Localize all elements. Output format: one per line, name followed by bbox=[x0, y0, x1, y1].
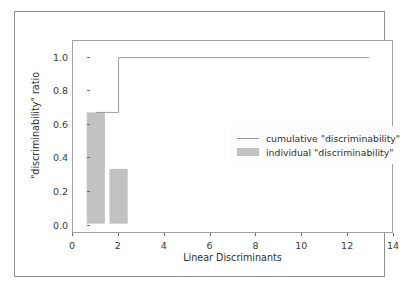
x-axis-label: Linear Discriminants bbox=[72, 252, 393, 263]
bar-series bbox=[87, 112, 128, 223]
y-tick-mark bbox=[87, 124, 90, 125]
legend-item-cumulative: cumulative "discriminability" bbox=[237, 131, 390, 145]
x-tick-label: 14 bbox=[387, 240, 399, 251]
x-tick-label: 6 bbox=[207, 240, 213, 251]
x-tick-label: 10 bbox=[295, 240, 307, 251]
x-tick-label: 4 bbox=[161, 240, 167, 251]
legend-label-individual: individual "discriminability" bbox=[266, 147, 394, 158]
x-tick-mark bbox=[72, 233, 73, 236]
x-tick-label: 12 bbox=[341, 240, 353, 251]
x-tick-mark bbox=[301, 233, 302, 236]
step-line bbox=[96, 58, 369, 113]
x-tick-mark bbox=[210, 233, 211, 236]
x-tick-mark bbox=[255, 233, 256, 236]
figure: 0.00.20.40.60.81.0 02468101214 Linear Di… bbox=[0, 0, 405, 290]
y-tick-mark bbox=[87, 225, 90, 226]
y-tick-mark bbox=[87, 90, 90, 91]
x-tick-label: 0 bbox=[69, 240, 75, 251]
y-tick-label: 0.0 bbox=[34, 219, 68, 230]
x-tick-mark bbox=[164, 233, 165, 236]
y-axis-label: "discriminability" ratio bbox=[30, 36, 41, 216]
x-tick-mark bbox=[393, 233, 394, 236]
legend-item-individual: individual "discriminability" bbox=[237, 145, 390, 159]
bar bbox=[87, 112, 105, 223]
legend-line-swatch-icon bbox=[237, 133, 259, 144]
x-tick-label: 2 bbox=[115, 240, 121, 251]
y-tick-mark bbox=[87, 191, 90, 192]
figure-frame: 0.00.20.40.60.81.0 02468101214 Linear Di… bbox=[14, 11, 385, 277]
y-tick-mark bbox=[87, 57, 90, 58]
x-tick-label: 8 bbox=[252, 240, 258, 251]
x-tick-mark bbox=[118, 233, 119, 236]
x-tick-mark bbox=[347, 233, 348, 236]
chart-legend: cumulative "discriminability" individual… bbox=[230, 126, 396, 164]
legend-label-cumulative: cumulative "discriminability" bbox=[266, 133, 400, 144]
bar bbox=[109, 169, 127, 224]
y-tick-mark bbox=[87, 157, 90, 158]
cumulative-step-line bbox=[96, 58, 369, 113]
legend-patch-swatch-icon bbox=[237, 148, 259, 156]
